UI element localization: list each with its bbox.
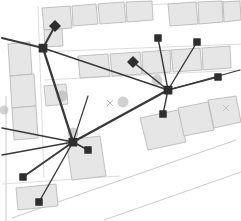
endpoint-top-right[interactable]: [193, 38, 201, 46]
building-left-col-a: [8, 42, 32, 76]
building-top-right-c: [223, 1, 241, 22]
endpoint-bottom-left[interactable]: [19, 173, 27, 181]
building-row-e: [202, 46, 231, 70]
endpoint-lower-right[interactable]: [159, 110, 167, 118]
map-svg[interactable]: [0, 0, 241, 221]
building-top-left-c: [72, 4, 98, 26]
map-canvas[interactable]: [0, 0, 241, 221]
parcel-line-left-v: [38, 6, 44, 178]
building-top-mid-a: [98, 2, 126, 24]
halo-marker-2: [118, 97, 129, 108]
building-lower-right-b: [178, 102, 214, 136]
endpoint-top-center[interactable]: [154, 34, 162, 42]
building-top-right-a: [168, 2, 198, 26]
building-left-col-b: [10, 74, 36, 108]
hub-node-a[interactable]: [39, 44, 48, 53]
parcels-layer: [2, 1, 241, 184]
building-top-mid-b: [126, 1, 153, 22]
endpoint-below-hub-c[interactable]: [84, 146, 92, 154]
building-row-a: [78, 54, 110, 78]
endpoint-right[interactable]: [214, 73, 222, 81]
endpoint-bottom[interactable]: [35, 198, 43, 206]
building-top-right-b: [198, 1, 223, 24]
hub-node-b[interactable]: [164, 86, 173, 95]
building-row-c: [142, 50, 171, 74]
building-lower-right-c: [208, 96, 241, 128]
halo-marker-5: [0, 106, 9, 115]
hub-node-c[interactable]: [69, 138, 78, 147]
cross-mark-center: [107, 100, 113, 106]
building-lower-left: [16, 184, 58, 210]
